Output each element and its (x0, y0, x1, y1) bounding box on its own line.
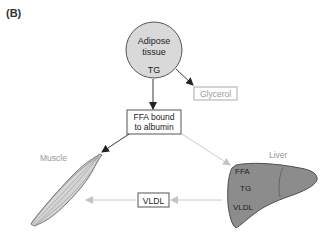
adipose-tg-label: TG (148, 65, 161, 75)
arrow-adipose-to-glycerol (176, 69, 193, 85)
arrow-ffa-to-liver (182, 134, 230, 165)
liver-content-ffa: FFA (235, 167, 250, 176)
liver-node: Liver FFA TG VLDL (228, 150, 317, 228)
liver-label: Liver (269, 150, 288, 160)
vldl-label: VLDL (143, 196, 165, 206)
panel-label: (B) (6, 7, 22, 19)
adipose-label-line2: tissue (142, 47, 166, 57)
ffa-label-line1: FFA bound (133, 112, 174, 122)
arrow-ffa-to-muscle (102, 134, 129, 152)
ffa-label-line2: to albumin (134, 122, 173, 132)
muscle-label: Muscle (40, 153, 67, 163)
diagram-canvas: (B) Adipose tissue TG Glycerol FFA bound… (0, 0, 324, 235)
adipose-label-line1: Adipose (138, 36, 171, 46)
glycerol-label: Glycerol (200, 89, 231, 99)
adipose-tissue-node: Adipose tissue TG (126, 22, 182, 78)
vldl-node: VLDL (138, 193, 169, 207)
muscle-node: Muscle (31, 153, 102, 226)
ffa-albumin-node: FFA bound to albumin (127, 110, 181, 134)
glycerol-node: Glycerol (194, 87, 237, 100)
liver-content-tg: TG (240, 184, 251, 193)
liver-content-vldl: VLDL (233, 203, 254, 212)
